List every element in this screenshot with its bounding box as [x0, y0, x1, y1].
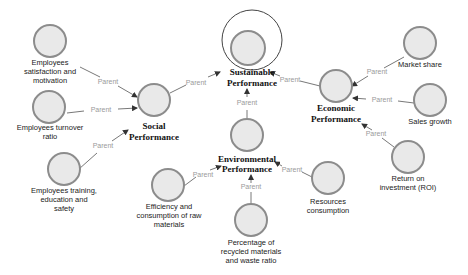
node-return-on-investment[interactable]: Return on investment (ROI)	[380, 141, 437, 192]
social-label-line1: Social	[142, 121, 166, 131]
resources-circle	[312, 162, 344, 194]
diagram-svg: Parent Parent Parent Parent Parent	[0, 0, 468, 275]
edge-label: Parent	[241, 183, 262, 190]
edge-resources-to-environmental: Parent	[275, 162, 312, 177]
environmental-label-line2: Performance	[222, 164, 272, 174]
node-efficiency-raw-materials[interactable]: Efficiency and consumption of raw materi…	[136, 169, 202, 229]
leaf-label-line: satisfaction and	[24, 67, 76, 76]
edge-label: Parent	[372, 96, 393, 103]
edge-roi-to-economic: Parent	[362, 124, 394, 147]
node-economic-performance[interactable]: Economic Performance	[311, 70, 361, 124]
node-sustainable-performance[interactable]: Sustainable Performance	[222, 10, 282, 88]
root-label-line2: Performance	[227, 78, 277, 88]
node-resources-consumption[interactable]: Resources consumption	[307, 162, 350, 215]
edge-sales-growth-to-economic: Parent	[353, 96, 414, 103]
environmental-label-line1: Environmental	[218, 154, 276, 164]
market-share-circle	[404, 27, 436, 59]
leaf-label-line: Resources	[310, 197, 346, 206]
root-label-line1: Sustainable	[230, 67, 275, 77]
node-social-performance[interactable]: Social Performance	[129, 84, 179, 142]
leaf-label-line: consumption of raw	[136, 211, 202, 220]
roi-circle	[392, 141, 424, 173]
edge-label: Parent	[282, 166, 303, 173]
leaf-label-line: recycled materials	[221, 247, 282, 256]
economic-label-line1: Economic	[317, 103, 355, 113]
leaf-label-line: safety	[54, 204, 74, 213]
edge-social-to-sustainable: Parent	[170, 72, 220, 93]
edge-environmental-to-sustainable: Parent	[237, 89, 258, 118]
node-employees-satisfaction[interactable]: Employees satisfaction and motivation	[24, 25, 76, 85]
social-circle	[138, 84, 170, 116]
leaf-label-line: investment (ROI)	[380, 183, 437, 192]
leaf-label-line: and waste ratio	[226, 256, 277, 265]
leaf-label-line: consumption	[307, 206, 350, 215]
leaf-label-line: Percentage of	[228, 238, 276, 247]
node-percentage-recycled[interactable]: Percentage of recycled materials and was…	[221, 204, 282, 265]
environmental-circle	[231, 119, 263, 151]
leaf-label-line: Employees	[31, 58, 68, 67]
node-market-share[interactable]: Market share	[398, 27, 442, 69]
leaf-label-line: materials	[154, 220, 185, 229]
percentage-recycled-circle	[235, 204, 267, 236]
leaf-label-line: Return on	[392, 174, 425, 183]
edge-label: Parent	[93, 142, 114, 149]
leaf-label-line: Market share	[398, 60, 442, 69]
economic-label-line2: Performance	[311, 114, 361, 124]
social-label-line2: Performance	[129, 132, 179, 142]
leaf-label-line: Efficiency and	[146, 202, 193, 211]
diagram-canvas: Parent Parent Parent Parent Parent	[0, 0, 468, 275]
leaf-label-line: education and	[40, 195, 87, 204]
edge-economic-to-sustainable: Parent	[270, 72, 320, 86]
leaf-label-line: Sales growth	[408, 117, 451, 126]
employees-turnover-circle	[33, 91, 65, 123]
edge-label: Parent	[193, 171, 214, 178]
leaf-label-line: motivation	[33, 76, 67, 85]
edge-label: Parent	[367, 68, 388, 75]
node-sales-growth[interactable]: Sales growth	[408, 84, 451, 126]
edge-efficiency-to-environmental: Parent	[184, 166, 221, 186]
edge-percentage-to-environmental: Parent	[241, 175, 262, 204]
economic-circle	[320, 70, 352, 102]
efficiency-circle	[152, 169, 184, 201]
edge-satisfaction-to-social: Parent	[80, 67, 137, 97]
leaf-label-line: Employees training,	[31, 186, 97, 195]
edge-market-share-to-economic: Parent	[352, 57, 404, 86]
edge-label: Parent	[186, 79, 207, 86]
edge-turnover-to-social: Parent	[67, 106, 137, 113]
edge-label: Parent	[366, 130, 387, 137]
edge-label: Parent	[98, 78, 119, 85]
leaf-label-line: ratio	[43, 132, 58, 141]
edge-label: Parent	[237, 99, 258, 106]
employees-training-circle	[48, 153, 80, 185]
leaf-label-line: Employees turnover	[17, 123, 84, 132]
sales-growth-circle	[414, 84, 446, 116]
node-environmental-performance[interactable]: Environmental Performance	[218, 119, 276, 174]
edge-label: Parent	[280, 76, 301, 83]
edge-training-to-social: Parent	[79, 130, 128, 169]
employees-satisfaction-circle	[34, 25, 66, 57]
root-circle	[231, 31, 265, 65]
node-employees-turnover[interactable]: Employees turnover ratio	[17, 91, 84, 141]
edge-label: Parent	[91, 106, 112, 113]
